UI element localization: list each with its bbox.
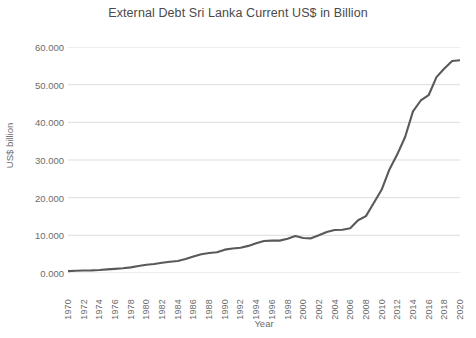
chart-container: External Debt Sri Lanka Current US$ in B… [0, 0, 476, 338]
y-tick-label: 60.000 [6, 42, 64, 53]
chart-title: External Debt Sri Lanka Current US$ in B… [0, 6, 476, 20]
x-tick-label: 2016 [424, 299, 434, 320]
x-tick-label: 1984 [173, 299, 183, 320]
x-tick-label: 1988 [204, 299, 214, 320]
x-tick-label: 2010 [377, 299, 387, 320]
x-axis-label: Year [68, 318, 460, 329]
x-axis-ticks: 1970197219741976197819801982198419861988… [68, 276, 460, 320]
y-tick-label: 30.000 [6, 155, 64, 166]
x-tick-label: 1994 [251, 299, 261, 320]
plot-area [68, 47, 460, 273]
x-tick-label: 2018 [439, 299, 449, 320]
x-tick-label: 2008 [361, 299, 371, 320]
x-tick-label: 1982 [157, 299, 167, 320]
x-tick-label: 2006 [345, 299, 355, 320]
x-tick-label: 1976 [110, 299, 120, 320]
y-tick-label: 40.000 [6, 117, 64, 128]
x-tick-label: 1996 [267, 299, 277, 320]
x-tick-label: 1980 [141, 299, 151, 320]
x-tick-label: 2000 [298, 299, 308, 320]
data-series-line [68, 60, 460, 271]
x-tick-label: 2002 [314, 299, 324, 320]
x-tick-label: 2012 [392, 299, 402, 320]
x-tick-label: 1986 [188, 299, 198, 320]
x-tick-label: 1978 [126, 299, 136, 320]
y-axis-ticks: 60.00050.00040.00030.00020.00010.0000.00… [0, 47, 64, 273]
x-tick-label: 1974 [94, 299, 104, 320]
x-tick-label: 2020 [455, 299, 465, 320]
y-tick-label: 50.000 [6, 79, 64, 90]
x-tick-label: 1992 [235, 299, 245, 320]
y-tick-label: 0.000 [6, 268, 64, 279]
gridlines [68, 47, 460, 273]
x-tick-label: 2014 [408, 299, 418, 320]
x-tick-label: 1998 [283, 299, 293, 320]
data-line-svg [68, 47, 460, 273]
x-tick-label: 1990 [220, 299, 230, 320]
y-tick-label: 20.000 [6, 192, 64, 203]
x-tick-label: 1970 [63, 299, 73, 320]
x-tick-label: 2004 [330, 299, 340, 320]
y-tick-label: 10.000 [6, 230, 64, 241]
x-tick-label: 1972 [79, 299, 89, 320]
